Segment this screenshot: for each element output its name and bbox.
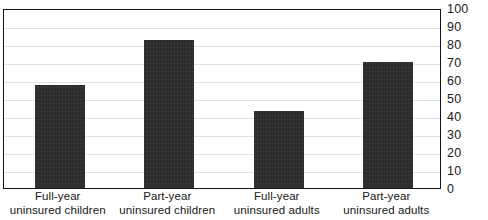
- y-axis-tick-90: 90: [447, 20, 487, 34]
- y-axis-tick-70: 70: [447, 56, 487, 70]
- x-axis-label-line: uninsured adults: [222, 204, 332, 218]
- y-axis-tick-10: 10: [447, 164, 487, 178]
- y-axis-tick-100: 100: [447, 2, 487, 16]
- cropped-title-remnant: [0, 0, 488, 7]
- x-axis-label-line: Full-year: [3, 190, 113, 204]
- bar: [144, 40, 194, 188]
- x-axis-label-line: uninsured children: [3, 204, 113, 218]
- y-axis-tick-40: 40: [447, 110, 487, 124]
- x-axis-label-line: Part-year: [332, 190, 442, 204]
- x-axis-label: Part-yearuninsured adults: [332, 190, 442, 217]
- y-axis: 1009080706050403020100: [447, 9, 487, 189]
- y-axis-tick-50: 50: [447, 92, 487, 106]
- x-axis-label-line: Full-year: [222, 190, 332, 204]
- x-axis-label: Full-yearuninsured children: [3, 190, 113, 217]
- plot-area: [3, 9, 441, 189]
- bar: [363, 62, 413, 188]
- x-axis-label-line: Part-year: [113, 190, 223, 204]
- x-axis-label: Full-yearuninsured adults: [222, 190, 332, 217]
- y-axis-tick-20: 20: [447, 146, 487, 160]
- bars-layer: [4, 10, 440, 188]
- x-axis-label: Part-yearuninsured children: [113, 190, 223, 217]
- x-axis-label-line: uninsured adults: [332, 204, 442, 218]
- y-axis-tick-60: 60: [447, 74, 487, 88]
- x-axis-category-labels: Full-yearuninsured childrenPart-yearunin…: [3, 190, 441, 220]
- bar: [254, 111, 304, 188]
- bar-chart: 1009080706050403020100 Full-yearuninsure…: [0, 0, 488, 220]
- x-axis-label-line: uninsured children: [113, 204, 223, 218]
- bar: [35, 85, 85, 188]
- y-axis-tick-80: 80: [447, 38, 487, 52]
- y-axis-tick-0: 0: [447, 182, 487, 196]
- y-axis-tick-30: 30: [447, 128, 487, 142]
